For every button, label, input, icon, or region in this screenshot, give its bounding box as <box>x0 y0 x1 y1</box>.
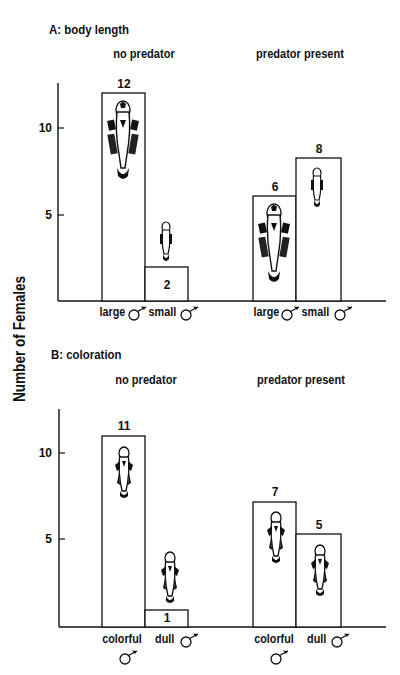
category-label-large: large <box>99 305 125 319</box>
male-symbol-icon <box>181 307 198 321</box>
male-symbol-icon <box>271 651 288 665</box>
category-label-small: small <box>149 305 177 319</box>
value-label: 2 <box>145 278 189 292</box>
category-label-dull: dull <box>307 632 326 646</box>
fish-dull-icon <box>161 552 179 603</box>
category-label-small: small <box>302 305 330 319</box>
male-symbol-icon <box>282 307 299 321</box>
value-label: 6 <box>253 180 297 194</box>
category-label-colorful: colorful <box>102 632 142 646</box>
male-symbol-icon <box>335 307 352 321</box>
panel-b-group-no-predator: no predator <box>78 372 214 387</box>
panel-b-group-predator-present: predator present <box>233 372 369 387</box>
panel-a-tick-5: 5 <box>22 208 52 222</box>
y-axis-label: Number of Females <box>11 254 29 424</box>
panel-b-tick-5: 5 <box>22 532 52 546</box>
category-label-large: large <box>253 305 279 319</box>
value-label: 8 <box>297 142 341 156</box>
value-label: 7 <box>253 485 297 499</box>
panel-a-group-no-predator: no predator <box>76 46 212 61</box>
male-symbol-icon <box>332 634 349 648</box>
value-label: 5 <box>297 518 341 532</box>
male-symbol-icon <box>129 307 146 321</box>
category-label-colorful: colorful <box>254 632 294 646</box>
figure-canvas <box>0 0 400 675</box>
panel-a-group-predator-present: predator present <box>232 46 368 61</box>
value-label: 11 <box>102 419 146 433</box>
category-label-dull: dull <box>155 632 174 646</box>
male-symbol-icon <box>120 651 137 665</box>
fish-small-icon <box>160 222 172 261</box>
panel-a-title: A: body length <box>49 22 129 37</box>
value-label: 1 <box>145 611 189 625</box>
panel-a-tick-10: 10 <box>22 121 52 135</box>
value-label: 12 <box>102 77 146 91</box>
panel-b-title: B: coloration <box>51 347 122 362</box>
male-symbol-icon <box>181 634 198 648</box>
panel-b-tick-10: 10 <box>22 446 52 460</box>
